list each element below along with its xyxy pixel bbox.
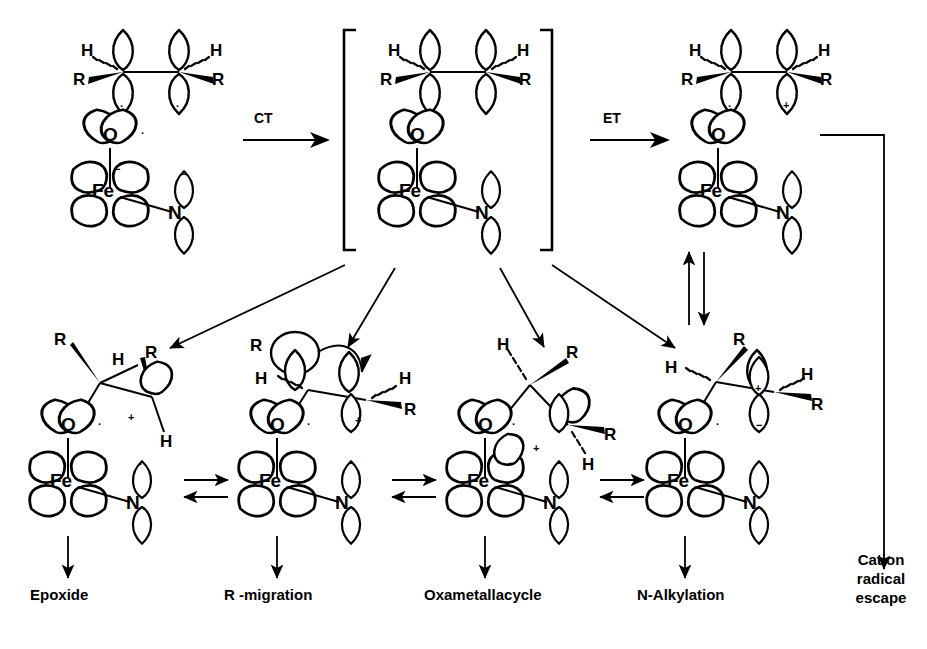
s3-r-left: R: [681, 70, 693, 90]
b3-plus: +: [533, 442, 539, 454]
b1-r-top: R: [54, 330, 66, 350]
product-label-cation-escape: Cation radical escape: [838, 551, 924, 607]
product-label-r-migration: R -migration: [224, 586, 312, 603]
s3-nitrogen-label: N: [776, 202, 790, 224]
branch-arrows: [170, 265, 675, 348]
b4-oxygen-label: O: [678, 414, 693, 436]
b4-nitrogen-label: N: [743, 492, 757, 514]
alkene-fragment: [696, 30, 822, 114]
b1-plus: +: [128, 411, 134, 423]
s2-iron-label: Fe: [399, 180, 421, 202]
s2-h-right: H: [517, 41, 529, 61]
b3-r-top: R: [566, 343, 578, 363]
cation-escape-connector: [820, 135, 884, 569]
b3-r-right: R: [604, 425, 616, 445]
b1-r-right: R: [145, 343, 157, 363]
b3-o-radical: ·: [512, 418, 516, 430]
structure-epoxide-intermediate: [24, 342, 178, 578]
s2-r-left: R: [380, 70, 392, 90]
s2-r-right: R: [519, 70, 531, 90]
oxametallacycle-metal-fragment: [441, 394, 569, 544]
bracket-right: [540, 30, 552, 250]
mechanism-figure: H H R R · · O Fe N · − − CT H H R R O Fe…: [0, 0, 927, 649]
b1-iron-label: Fe: [50, 470, 72, 492]
b1-n-radical: ·: [139, 458, 143, 470]
b2-n-minus: −: [348, 457, 354, 469]
s1-nitrogen-label: N: [168, 202, 182, 224]
s3-plus: +: [783, 99, 789, 111]
b4-h-left: H: [665, 358, 677, 378]
b2-r-top: R: [250, 336, 262, 356]
s3-r-right: R: [820, 70, 832, 90]
s1-radical-right: ·: [176, 100, 180, 112]
migrating-group-orbitals: [271, 332, 362, 392]
s1-iron-label: Fe: [92, 180, 114, 202]
equilibrium-1: [184, 480, 228, 497]
s1-h-right: H: [210, 41, 222, 61]
b4-n-minus: −: [756, 419, 762, 431]
alkene-fragment: [395, 30, 521, 114]
b3-nitrogen-label: N: [543, 492, 557, 514]
b1-h-right: H: [160, 432, 172, 452]
b4-h-right: H: [801, 365, 813, 385]
b3-iron-label: Fe: [467, 470, 489, 492]
b4-o-radical: ·: [716, 418, 720, 430]
ct-label: CT: [254, 110, 273, 126]
s3-h-right: H: [818, 41, 830, 61]
iron-oxo-fragment: [674, 107, 802, 253]
structure-reactants: [66, 30, 214, 254]
cation-escape-line3: escape: [838, 589, 924, 608]
s3-radical: ·: [728, 100, 732, 112]
iron-oxo-fragment: [373, 107, 501, 253]
s1-fe-minus: −: [114, 163, 120, 175]
product-label-n-alkylation: N-Alkylation: [637, 586, 725, 603]
s1-n-minus: −: [181, 168, 187, 180]
b2-nitrogen-label: N: [335, 492, 349, 514]
b4-r-right: R: [811, 395, 823, 415]
cation-escape-line2: radical: [838, 570, 924, 589]
s3-h-left: H: [689, 41, 701, 61]
s3-iron-label: Fe: [700, 180, 722, 202]
branch-arrow-r-migration: [348, 268, 395, 347]
et-label: ET: [603, 110, 621, 126]
structure-radical-cation: [674, 30, 822, 254]
structure-ct-complex: [344, 30, 552, 254]
cation-escape-line1: Cation: [838, 551, 924, 570]
alkene-fragment: [88, 30, 214, 114]
b2-oxygen-label: O: [270, 414, 285, 436]
b2-plus: +: [355, 414, 361, 426]
b1-o-radical: ·: [98, 418, 102, 430]
b4-r-top: R: [733, 330, 745, 350]
b2-o-radical: ·: [307, 418, 311, 430]
b2-h-right: H: [399, 369, 411, 389]
b3-h-right: H: [582, 455, 594, 475]
product-label-epoxide: Epoxide: [30, 586, 88, 603]
structure-oxametallacycle-intermediate: [441, 350, 605, 578]
b2-iron-label: Fe: [259, 470, 281, 492]
b2-h-left: H: [255, 369, 267, 389]
equilibrium-3: [600, 480, 644, 497]
s2-nitrogen-label: N: [475, 202, 489, 224]
branch-arrow-n-alkylation: [552, 265, 675, 348]
b1-oxygen-label: O: [61, 414, 76, 436]
s1-oxygen-label: O: [103, 124, 118, 146]
s1-radical-left: ·: [120, 100, 124, 112]
b3-n-minus: −: [556, 457, 562, 469]
b3-fe-minus: −: [508, 457, 514, 469]
b1-h-top: H: [112, 350, 124, 370]
s2-oxygen-label: O: [410, 124, 425, 146]
b4-plus: +: [755, 382, 761, 394]
b4-iron-label: Fe: [667, 470, 689, 492]
diagram-vector-layer: [0, 0, 927, 649]
product-label-oxametallacycle: Oxametallacycle: [424, 586, 542, 603]
s1-r-right: R: [212, 70, 224, 90]
iron-oxo-fragment: [66, 107, 194, 253]
bracket-left: [344, 30, 356, 250]
s1-r-left: R: [73, 70, 85, 90]
s1-h-left: H: [81, 41, 93, 61]
s2-h-left: H: [388, 41, 400, 61]
r-migration-metal-fragment: [233, 394, 361, 544]
b3-oxygen-label: O: [478, 414, 493, 436]
n-alkylation-metal-fragment: [641, 357, 769, 544]
b1-nitrogen-label: N: [126, 492, 140, 514]
